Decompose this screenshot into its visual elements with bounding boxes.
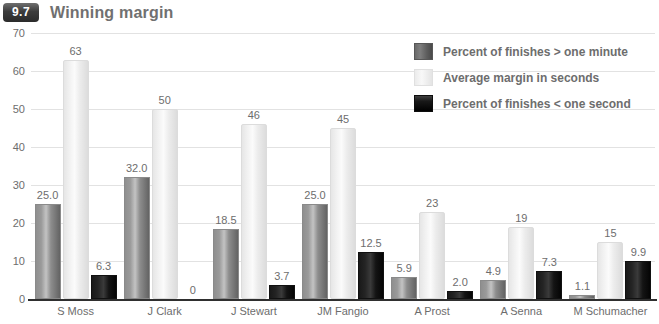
bar-value-label: 5.9 [384,263,424,274]
bar [625,261,651,299]
bar-value-label: 18.5 [206,215,246,226]
legend-item-label: Average margin in seconds [443,66,599,90]
bar [152,109,178,299]
bar-value-label: 4.9 [473,266,513,277]
section-number-badge: 9.7 [3,3,39,22]
legend-item[interactable]: Percent of finishes > one minute [414,40,659,66]
bar [35,204,61,299]
bar-value-label: 46 [234,110,274,121]
bar-value-label: 12.5 [351,238,391,249]
legend-item-label: Percent of finishes < one second [443,92,631,116]
bar-value-label: 25.0 [28,190,68,201]
x-axis-line [28,299,657,301]
legend-swatch-icon [414,95,433,112]
y-axis-tick-label: 0 [0,294,25,305]
x-axis-tick-label: JM Fangio [298,305,387,317]
bar-value-label: 15 [590,228,630,239]
bar [480,280,506,299]
bar [269,285,295,299]
bar-value-label: 6.3 [84,261,124,272]
bar-value-label: 2.0 [440,277,480,288]
x-axis-tick-label: J Clark [120,305,209,317]
bar-value-label: 0 [173,285,213,296]
bar [536,271,562,299]
bar-value-label: 1.1 [562,281,602,292]
x-axis-tick-label: J Stewart [209,305,298,317]
y-axis-tick-label: 70 [0,28,25,39]
y-axis-tick-label: 50 [0,104,25,115]
legend-item-label: Percent of finishes > one minute [443,40,628,64]
x-axis-tick-label: A Prost [388,305,477,317]
bar [213,229,239,299]
bar-value-label: 25.0 [295,190,335,201]
x-axis-tick-label: M Schumacher [566,305,655,317]
bar-value-label: 63 [56,46,96,57]
bar-value-label: 3.7 [262,271,302,282]
bar [358,252,384,300]
y-axis-tick-label: 10 [0,256,25,267]
bar-value-label: 50 [145,95,185,106]
bar-value-label: 7.3 [529,257,569,268]
legend-swatch-icon [414,43,433,60]
legend-swatch-icon [414,69,433,86]
y-axis-tick-label: 30 [0,180,25,191]
bar-value-label: 9.9 [618,247,658,258]
bar [302,204,328,299]
bar-value-label: 32.0 [117,163,157,174]
x-axis-tick-label: S Moss [31,305,120,317]
y-axis-tick-label: 20 [0,218,25,229]
bar [569,295,595,299]
bar [330,128,356,299]
x-axis-tick-label: A Senna [477,305,566,317]
y-axis-tick-label: 40 [0,142,25,153]
bar [124,177,150,299]
page-title: Winning margin [50,2,174,24]
bar-value-label: 23 [412,198,452,209]
chart-page: 9.7 Winning margin 010203040506070 25.06… [0,0,659,324]
bar [391,277,417,299]
legend-item[interactable]: Percent of finishes < one second [414,92,659,118]
chart-legend: Percent of finishes > one minuteAverage … [414,40,659,118]
y-axis-tick-label: 60 [0,66,25,77]
bar-value-label: 45 [323,114,363,125]
chart-header: 9.7 Winning margin [0,0,659,28]
bar [91,275,117,299]
legend-item[interactable]: Average margin in seconds [414,66,659,92]
bar [447,291,473,299]
bar-value-label: 19 [501,213,541,224]
